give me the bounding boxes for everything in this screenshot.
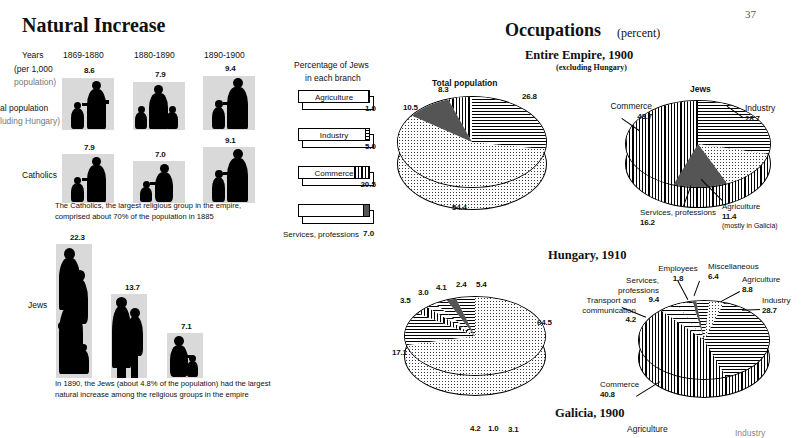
pie-label-transport-hungary-jews-text: Transport and communication xyxy=(582,296,636,315)
legend-label-industry: Industry xyxy=(299,130,369,139)
value-jews-1869: 22.3 xyxy=(70,233,85,242)
pie-label-commerce-hungary-jews-text: Commerce xyxy=(600,380,639,389)
value-total-1869: 8.6 xyxy=(84,66,95,75)
family-figure-total-1869 xyxy=(62,78,114,130)
pie-value-galicia-b: 1.0 xyxy=(488,424,499,433)
row-label-total-population-1: al population xyxy=(0,103,48,114)
legend-item-agriculture: Agriculture 1.0 xyxy=(298,90,376,112)
pie-value-agriculture-hungary-total: 64.5 xyxy=(537,318,552,327)
pie-label-services-jews: Services, professions 16.2 xyxy=(640,208,716,227)
period-1880-1890: 1880-1890 xyxy=(134,50,175,61)
legend-fill-services xyxy=(363,205,369,216)
pie-value-miscellaneous-hungary-total: 5.4 xyxy=(476,280,487,289)
section-heading-hungary: Hungary, 1910 xyxy=(548,248,627,263)
pie-value-agriculture-jews: 11.4 xyxy=(722,212,736,221)
legend-value-services: 7.0 xyxy=(363,229,374,238)
pie-value-agriculture-empire-total: 54.4 xyxy=(452,203,467,212)
pie-value-commerce-jews: 43.7 xyxy=(637,112,652,121)
value-catholics-1890: 9.1 xyxy=(225,136,236,145)
pie-value-industry-empire-total: 26.8 xyxy=(522,92,537,101)
row-label-jews: Jews xyxy=(28,300,47,311)
legend-value-commerce: 20.5 xyxy=(360,180,376,189)
pie-label-agriculture-hungary-jews-text: Agriculture xyxy=(742,275,780,284)
page-number: 37 xyxy=(745,8,756,20)
family-figure-jews-1890 xyxy=(167,333,203,378)
family-figure-jews-1869 xyxy=(56,244,92,378)
pie-value-industry-jews: 28.7 xyxy=(745,114,760,123)
pie-value-industry-hungary-jews: 28.7 xyxy=(762,306,777,315)
value-jews-1890: 7.1 xyxy=(181,322,192,331)
legend-heading-line2: in each branch xyxy=(305,73,361,84)
pie-value-agriculture-hungary-jews: 8.8 xyxy=(742,285,753,294)
pie-label-employees-hungary-jews-text: Employees xyxy=(658,264,698,273)
value-total-1880: 7.9 xyxy=(155,70,166,79)
pie-hungary-total-population xyxy=(404,296,550,406)
pie-label-agriculture-hungary-jews: Agriculture 8.8 xyxy=(742,275,780,294)
value-catholics-1869: 7.9 xyxy=(84,143,95,152)
pie-label-commerce-hungary-jews: Commerce 40.8 xyxy=(600,380,639,399)
legend-label-commerce: Commerce xyxy=(299,168,383,177)
pie-label-industry-jews-text: Industry xyxy=(745,103,775,113)
pie-value-commerce-hungary-jews: 40.8 xyxy=(600,390,615,399)
pie-label-miscellaneous-hungary-jews-text: Miscellaneous xyxy=(708,262,759,271)
years-label: Years xyxy=(22,50,43,61)
legend-value-agriculture: 1.0 xyxy=(365,104,376,113)
per-1000-label-line1: (per 1,000 xyxy=(14,64,53,75)
legend-value-industry: 5.0 xyxy=(365,142,376,151)
family-figure-total-1880 xyxy=(133,82,185,130)
note-catholics: The Catholics, the largest religious gro… xyxy=(55,200,270,223)
legend-heading-line1: Percentage of Jews xyxy=(294,60,369,71)
pie-annotation-galicia: (mostly in Galicia) xyxy=(722,222,778,229)
pie-value-transport-hungary-jews: 4.2 xyxy=(625,315,636,324)
pie-label-industry-hungary-jews: Industry 28.7 xyxy=(762,296,790,315)
family-figure-catholics-1890 xyxy=(203,147,255,203)
pie-value-services-empire-total: 10.5 xyxy=(403,103,418,112)
pie-label-transport-hungary-jews: Transport and communication 4.2 xyxy=(560,296,636,325)
left-panel-title: Natural Increase xyxy=(22,14,166,37)
pie-value-services-hungary-total: 4.1 xyxy=(436,283,447,292)
pie-label-industry-galicia: Industry xyxy=(735,428,765,438)
legend-label-agriculture: Agriculture xyxy=(299,92,369,101)
legend-item-services xyxy=(298,204,376,226)
legend-item-industry: Industry 5.0 xyxy=(298,128,376,150)
pie-hungary-jews xyxy=(638,300,774,408)
row-label-catholics: Catholics xyxy=(22,170,57,181)
pie-value-galicia-c: 3.1 xyxy=(508,425,519,434)
legend-item-commerce: Commerce 20.5 xyxy=(298,166,376,188)
per-1000-label-line2: population) xyxy=(14,77,56,88)
section-heading-entire-empire: Entire Empire, 1900 xyxy=(525,48,633,63)
value-jews-1880: 13.7 xyxy=(125,283,140,292)
family-figure-catholics-1869 xyxy=(62,154,114,203)
pie-value-miscellaneous-hungary-jews: 6.4 xyxy=(708,272,719,281)
pie-value-galicia-a: 4.2 xyxy=(470,424,481,433)
legend-label-services: Services, professions xyxy=(283,230,359,239)
value-catholics-1880: 7.0 xyxy=(155,150,166,159)
pie-title-empire-jews: Jews xyxy=(690,84,711,95)
section-heading-galicia: Galicia, 1900 xyxy=(555,406,624,421)
period-1869-1880: 1869-1880 xyxy=(63,50,104,61)
pie-label-commerce-jews-text: Commerce xyxy=(610,101,652,111)
pie-value-services-hungary-jews: 9.4 xyxy=(648,295,659,304)
pie-label-industry-jews: Industry 28.7 xyxy=(745,103,775,124)
family-figure-jews-1880 xyxy=(111,294,147,378)
pie-value-industry-hungary-total: 17.1 xyxy=(392,348,407,357)
pie-label-agriculture-jews: Agriculture 11.4 (mostly in Galicia) xyxy=(722,202,778,231)
pie-label-agriculture-galicia: Agriculture xyxy=(627,424,668,434)
family-figure-total-1890 xyxy=(203,76,255,130)
pie-value-commerce-hungary-total: 3.5 xyxy=(400,296,411,305)
pie-label-services-jews-text: Services, professions xyxy=(640,208,716,217)
row-label-total-population-2: luding Hungary) xyxy=(0,116,60,127)
pie-value-transport-hungary-total: 3.0 xyxy=(418,288,429,297)
right-panel-title-unit: (percent) xyxy=(617,26,660,41)
value-total-1890: 9.4 xyxy=(225,64,236,73)
pie-value-employees-hungary-total: 2.4 xyxy=(456,280,467,289)
pie-label-industry-hungary-jews-text: Industry xyxy=(762,296,790,305)
right-panel-title: Occupations xyxy=(505,20,601,41)
pie-value-commerce-empire-total: 8.3 xyxy=(438,85,449,94)
note-jews: In 1890, the Jews (about 4.8% of the pop… xyxy=(55,378,283,401)
period-1890-1900: 1890-1900 xyxy=(204,50,245,61)
pie-empire-total-population xyxy=(397,96,551,220)
family-figure-catholics-1880 xyxy=(133,161,185,203)
pie-label-agriculture-jews-text: Agriculture xyxy=(722,202,760,211)
pie-value-services-jews: 16.2 xyxy=(640,218,655,227)
